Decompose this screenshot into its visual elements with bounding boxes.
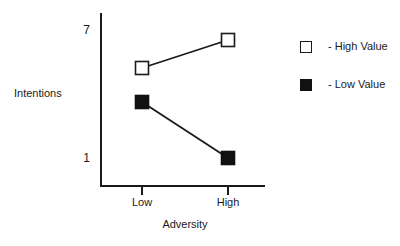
plot-area [0, 0, 400, 246]
data-point-low-value-high[interactable] [222, 152, 235, 165]
data-point-high-value-low[interactable] [136, 62, 149, 75]
data-point-low-value-low[interactable] [136, 96, 149, 109]
series-high-value [136, 34, 235, 75]
data-point-high-value-high[interactable] [222, 34, 235, 47]
series-low-value [136, 96, 235, 165]
series-line-low-value [142, 102, 228, 158]
interaction-plot-figure: 7 1 Low High Intentions Adversity - High… [0, 0, 400, 246]
legend-entry-high-value: - High Value [296, 38, 400, 58]
chart-legend: - High Value - Low Value [296, 38, 400, 114]
series-line-high-value [142, 40, 228, 68]
legend-swatch-filled-square-icon [300, 79, 312, 91]
legend-label-high-value: - High Value [328, 39, 388, 54]
legend-label-low-value: - Low Value [328, 77, 385, 92]
legend-entry-low-value: - Low Value [296, 76, 400, 96]
legend-swatch-open-square-icon [300, 41, 312, 53]
